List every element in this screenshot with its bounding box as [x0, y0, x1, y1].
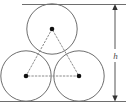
- height-label: h: [113, 51, 118, 61]
- figure-canvas: h: [0, 0, 132, 108]
- top-center-dot: [50, 27, 55, 32]
- bottom-right-center-dot: [77, 74, 82, 79]
- bottom-left-center-dot: [24, 74, 29, 79]
- geometry-figure: h: [0, 0, 132, 108]
